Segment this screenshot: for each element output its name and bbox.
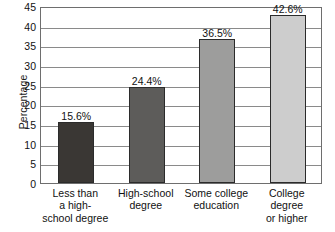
x-category-label-line: Some college bbox=[177, 187, 255, 199]
bar-value-label: 24.4% bbox=[117, 75, 177, 87]
y-tick-label: 10 bbox=[16, 140, 36, 150]
x-category-label-line: College bbox=[248, 187, 326, 199]
bar-value-label: 42.6% bbox=[258, 3, 318, 15]
x-category-label-line: degree bbox=[248, 199, 326, 211]
y-tick-label: 25 bbox=[16, 81, 36, 91]
x-category-label: Some collegeeducation bbox=[177, 187, 255, 212]
x-category-label-line: school degree bbox=[36, 212, 114, 224]
y-tick-label: 30 bbox=[16, 61, 36, 71]
x-category-label-line: a high- bbox=[36, 199, 114, 211]
bar bbox=[270, 15, 306, 183]
y-tick-label: 15 bbox=[16, 120, 36, 130]
y-tick-label: 40 bbox=[16, 22, 36, 32]
bar bbox=[58, 122, 94, 183]
x-category-label: High-schooldegree bbox=[107, 187, 185, 212]
bar-value-label: 15.6% bbox=[46, 110, 106, 122]
y-tick-label: 5 bbox=[16, 159, 36, 169]
bar bbox=[199, 39, 235, 183]
x-category-label: Collegedegreeor higher bbox=[248, 187, 326, 224]
plot-area: 15.6%24.4%36.5%42.6% bbox=[40, 7, 322, 184]
y-tick-label: 20 bbox=[16, 100, 36, 110]
y-tick-label: 0 bbox=[16, 179, 36, 189]
x-axis-category-labels: Less thana high-school degreeHigh-school… bbox=[40, 187, 322, 232]
x-category-label-line: or higher bbox=[248, 212, 326, 224]
y-tick-label: 45 bbox=[16, 2, 36, 12]
bar-value-label: 36.5% bbox=[187, 27, 247, 39]
x-category-label-line: High-school bbox=[107, 187, 185, 199]
x-category-label: Less thana high-school degree bbox=[36, 187, 114, 224]
bars-layer: 15.6%24.4%36.5%42.6% bbox=[41, 8, 321, 183]
bar-chart: Percentage 051015202530354045 15.6%24.4%… bbox=[0, 0, 335, 232]
bar bbox=[129, 87, 165, 183]
x-category-label-line: degree bbox=[107, 199, 185, 211]
x-category-label-line: education bbox=[177, 199, 255, 211]
y-tick-label: 35 bbox=[16, 41, 36, 51]
y-axis-tick-labels: 051015202530354045 bbox=[16, 0, 36, 232]
x-category-label-line: Less than bbox=[36, 187, 114, 199]
